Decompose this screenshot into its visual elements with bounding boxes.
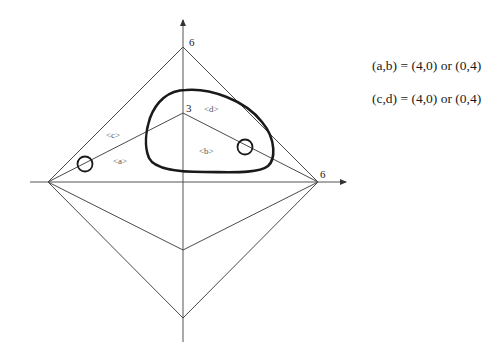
region-label-b: <b> [199, 147, 214, 156]
y-axis-label-6: 6 [189, 37, 195, 48]
circle-marker-left [78, 157, 93, 172]
diagram-figure: 6 3 6 <c> <a> <d> <b> (a,b) = (4,0) or (… [0, 0, 486, 358]
y-axis-label-3: 3 [186, 103, 192, 114]
axes [30, 20, 346, 342]
region-label-d: <d> [204, 105, 219, 114]
region-label-c: <c> [106, 131, 120, 140]
x-axis-label-6: 6 [320, 169, 326, 180]
equation-ab: (a,b) = (4,0) or (0,4) [372, 58, 481, 73]
feasible-region-curve [146, 90, 273, 172]
region-label-a: <a> [113, 157, 127, 166]
diagram-canvas [0, 0, 486, 358]
equation-cd: (c,d) = (4,0) or (0,4) [372, 91, 481, 106]
